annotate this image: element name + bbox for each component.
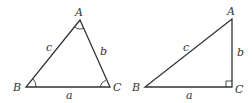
- side-label-b: b: [237, 46, 244, 59]
- vertex-label-a: A: [226, 5, 235, 18]
- right-angle-mark: [226, 81, 232, 87]
- vertex-label-c: C: [235, 83, 244, 96]
- vertex-label-b: B: [12, 81, 21, 94]
- right-triangle: A B C a b c: [131, 5, 244, 102]
- angle-mark-c: [100, 80, 106, 87]
- vertex-label-b: B: [131, 81, 140, 94]
- triangle-outline: [26, 20, 110, 87]
- general-triangle: A B C a b c: [12, 6, 122, 102]
- side-label-c: c: [183, 41, 189, 54]
- side-label-a: a: [186, 89, 193, 102]
- angle-mark-b: [33, 79, 36, 87]
- side-label-b: b: [100, 45, 107, 58]
- side-label-a: a: [66, 89, 73, 102]
- triangle-diagram: A B C a b c A B C a b c: [0, 0, 252, 103]
- vertex-label-c: C: [113, 81, 122, 94]
- vertex-label-a: A: [74, 6, 83, 19]
- side-label-c: c: [46, 41, 52, 54]
